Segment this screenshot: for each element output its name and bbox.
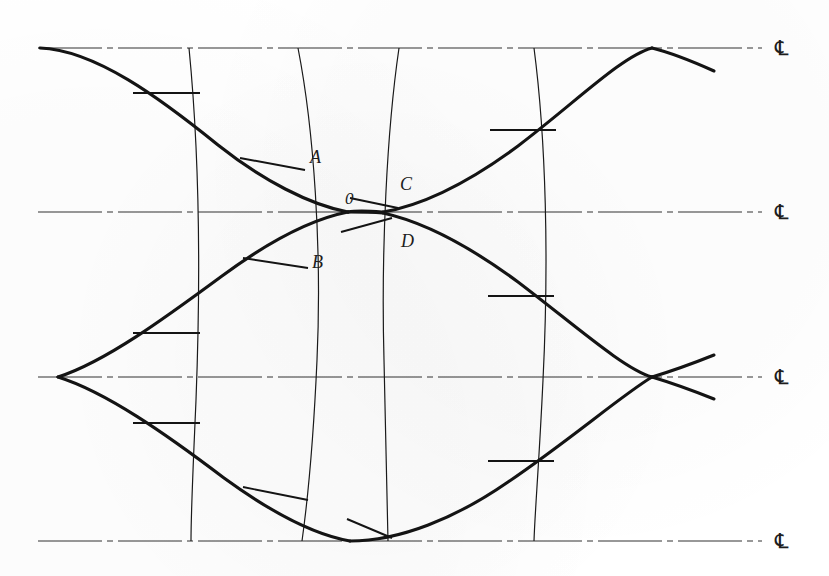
tick-bottom-mid [347, 519, 392, 538]
curve-right-cusp-tail-up [652, 355, 714, 377]
curve-right-lower-descend [383, 213, 652, 377]
vcurve-3 [383, 48, 399, 541]
point-label-C: C [400, 174, 413, 194]
centerline-labels-group: ℄℄℄℄ [774, 36, 789, 553]
centerline-symbol-cl-second: ℄ [774, 200, 789, 224]
centerline-symbol-cl-top: ℄ [774, 36, 789, 60]
curve-bottom-ascend-right [350, 377, 652, 541]
vcurve-2 [298, 48, 318, 541]
point-label-zero: 0 [345, 189, 354, 208]
centerline-symbol-cl-bottom: ℄ [774, 529, 789, 553]
curve-right-upper-tail [652, 48, 714, 71]
point-label-B: B [312, 252, 323, 272]
tick-C-apex [350, 198, 398, 208]
point-label-A: A [309, 147, 322, 167]
tick-B [243, 258, 308, 268]
curve-center-apex-lower [348, 212, 383, 213]
diagram-svg: ABCD0 ℄℄℄℄ [0, 0, 829, 576]
vertical-curves-group [189, 48, 546, 541]
centerlines-group [38, 48, 762, 541]
curve-lower-left-ascending [58, 212, 348, 377]
engineering-diagram-canvas: ABCD0 ℄℄℄℄ [0, 0, 829, 576]
thick-curves-group [40, 48, 714, 541]
point-label-D: D [400, 231, 414, 251]
curve-mid-left-to-cusp [58, 377, 350, 541]
centerline-symbol-cl-third: ℄ [774, 365, 789, 389]
curve-right-cusp-tail-down [652, 377, 714, 399]
